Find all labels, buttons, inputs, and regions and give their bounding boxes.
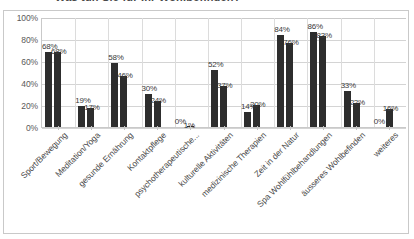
bar-group [274,18,307,127]
bar[interactable] [277,35,284,127]
x-axis-tick [224,126,225,130]
x-axis-tick [157,126,158,130]
x-axis-tick [91,126,92,130]
bar-value-label: 22% [350,98,365,107]
bar-value-label: 20% [250,100,265,109]
bar[interactable] [211,70,218,127]
bar-value-label: 37% [217,81,232,90]
bar-value-label: 24% [151,96,166,105]
y-axis-tick-label: 40% [21,79,38,89]
bar-value-label: 76% [283,38,298,47]
x-axis-tick [290,126,291,130]
bar-value-label: 58% [108,53,123,62]
x-axis-tick [389,126,390,130]
bar[interactable] [286,43,293,127]
bar-group [241,18,274,127]
bar-group [341,18,374,127]
x-axis-labels: Sport/BewegungMeditation/Yogagesunde Ern… [41,130,414,239]
chart-title-text: Was tun Sie für Ihr Wohlbefinden? [55,0,241,3]
bar-value-label: 16% [383,104,398,113]
x-axis-label: äusseres Wohlbefinden [299,130,367,198]
bar-value-label: 68% [51,47,66,56]
bar-value-label: 33% [341,81,356,90]
bar-group [42,18,75,127]
bar-value-label: 30% [142,84,157,93]
x-axis-label: psychotherapeutische... [132,130,201,199]
bar[interactable] [344,91,351,127]
y-axis-tick-label: 20% [21,101,38,111]
bar-value-label: 84% [274,25,289,34]
y-axis-tick-label: 0% [26,123,38,133]
bar[interactable] [220,86,227,127]
x-axis-tick [323,126,324,130]
bar-value-label: 52% [208,60,223,69]
bar-value-label: 0% [374,117,385,126]
y-axis-tick-label: 80% [21,35,38,45]
bar-value-label: 1% [184,121,195,130]
y-axis-tick-label: 100% [17,13,38,23]
x-axis-label: medizinische Therapien [199,130,268,199]
bar[interactable] [54,52,61,127]
x-axis-tick [124,126,125,130]
x-axis-tick [190,126,191,130]
bar[interactable] [310,32,317,127]
x-axis-label: weiteres [372,130,401,159]
y-axis: 0%20%40%60%80%100% [4,18,40,128]
bar-value-label: 83% [316,31,331,40]
bar-value-label: 17% [84,103,99,112]
bar-group [208,18,241,127]
bar[interactable] [45,52,52,127]
chart-frame: 0%20%40%60%80%100% 68%68%19%17%58%46%30%… [3,10,409,234]
x-axis-tick [58,126,59,130]
y-axis-tick-label: 60% [21,57,38,67]
bar-group [142,18,175,127]
bar-group [175,18,208,127]
bar[interactable] [120,76,127,127]
bar[interactable] [244,112,251,127]
x-axis-tick [257,126,258,130]
x-axis-tick [356,126,357,130]
bar[interactable] [319,36,326,127]
bar-value-label: 46% [117,71,132,80]
chart-title-clipped: Was tun Sie für Ihr Wohlbefinden? [0,0,414,9]
plot-area: 68%68%19%17%58%46%30%24%0%1%52%37%14%20%… [41,18,406,128]
